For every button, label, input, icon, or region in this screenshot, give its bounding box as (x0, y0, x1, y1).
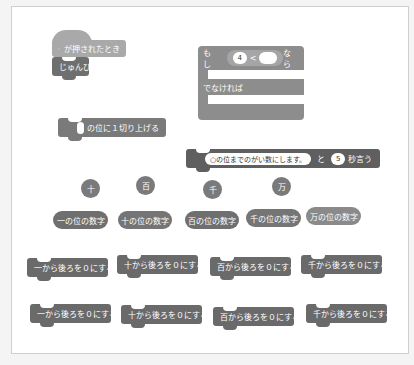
operator-label: < (250, 54, 257, 63)
ready-block[interactable]: じゅんび (52, 57, 89, 76)
say-seconds-input[interactable]: 5 (331, 153, 345, 165)
else-label: でなければ (203, 82, 243, 93)
zero-from-tens-block[interactable]: 十から後ろを０にする (117, 255, 198, 274)
if-header[interactable]: もし 4 < なら (198, 46, 304, 70)
digit-reporter-tens[interactable]: 十の位の数字 (118, 211, 172, 229)
place-reporter-ten-thousand[interactable]: 万 (272, 177, 291, 196)
else-bar: でなければ (198, 79, 304, 95)
digit-reporter-ones[interactable]: 一の位の数字 (53, 211, 108, 229)
right-operand-input[interactable] (259, 52, 277, 64)
zero-from-hundreds-block-2[interactable]: 百から後ろを０にする (213, 307, 294, 326)
place-reporter-hundred[interactable]: 百 (136, 176, 155, 195)
place-reporter-thousand[interactable]: 千 (203, 180, 222, 199)
zero-from-tens-block-2[interactable]: 十から後ろを０にする (121, 305, 202, 324)
if-footer (198, 104, 304, 120)
say-for-secs-block[interactable]: ○の位までのがい数にします。 と 5 秒言う (186, 149, 380, 168)
if-arm (198, 70, 208, 79)
say-and-label: と (317, 153, 325, 164)
round-up-label: の位に１切り上げる (87, 122, 159, 133)
digit-reporter-ten-thousands[interactable]: 万の位の数字 (306, 207, 361, 225)
zero-from-thousands-block[interactable]: 千から後ろを０にする (301, 255, 382, 274)
digit-reporter-thousands[interactable]: 千の位の数字 (246, 209, 301, 227)
say-suffix-label: 秒言う (348, 153, 372, 164)
hat-block-label: が押されたとき (64, 43, 120, 54)
place-reporter-ten[interactable]: 十 (81, 179, 100, 198)
if-label: もし (203, 47, 219, 69)
green-flag-icon (58, 45, 60, 53)
zero-from-thousands-block-2[interactable]: 千から後ろを０にする (306, 304, 387, 323)
say-message-input[interactable]: ○の位までのがい数にします。 (205, 153, 311, 165)
round-up-block[interactable]: の位に１切り上げる (58, 118, 166, 137)
digit-reporter-hundreds[interactable]: 百の位の数字 (185, 211, 239, 229)
when-flag-clicked-block[interactable]: が押されたとき (52, 40, 126, 57)
round-up-input[interactable] (77, 122, 84, 134)
left-operand-input[interactable]: 4 (233, 52, 247, 64)
less-than-operator[interactable]: 4 < (227, 50, 284, 66)
ready-block-label: じゅんび (59, 61, 91, 72)
zero-from-ones-block[interactable]: 一から後ろを０にする (27, 258, 108, 277)
else-arm (198, 95, 208, 104)
then-label: なら (283, 47, 299, 69)
zero-from-ones-block-2[interactable]: 一から後ろを０にする (30, 304, 111, 323)
zero-from-hundreds-block[interactable]: 百から後ろを０にする (210, 257, 291, 276)
